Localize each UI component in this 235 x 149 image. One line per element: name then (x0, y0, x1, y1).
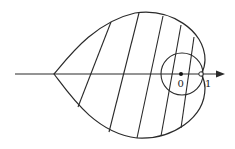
origin-label: 0 (178, 78, 184, 89)
axis-arrowhead-icon (216, 71, 225, 78)
origin-point (179, 72, 183, 76)
hatch-line (109, 13, 139, 132)
hatch-line (137, 16, 163, 138)
point-at-one (199, 72, 203, 76)
hatch-line (78, 22, 111, 107)
diagram-canvas: 0 1 (0, 0, 235, 149)
one-label: 1 (205, 78, 211, 89)
